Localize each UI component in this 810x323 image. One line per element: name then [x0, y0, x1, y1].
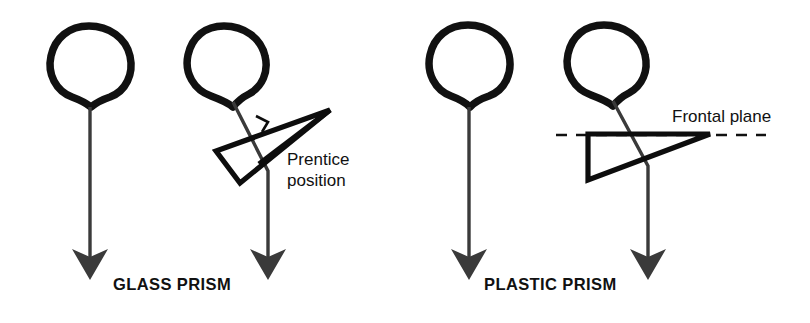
- frontal-plane-label: Frontal plane: [672, 106, 771, 127]
- plastic-prism-head-figure: [556, 25, 766, 258]
- prism-comparison-figure: GLASS PRISM PLASTIC PRISM Prentice posit…: [0, 0, 810, 323]
- glass-prism-head-figure: [187, 26, 330, 258]
- right-angle-marker-icon: [256, 116, 268, 132]
- head-outline-icon: [187, 26, 266, 107]
- prentice-position-label: Prentice position: [287, 149, 349, 191]
- gaze-line: [613, 101, 648, 258]
- plastic-prism-caption: PLASTIC PRISM: [484, 275, 617, 294]
- head-outline-icon: [50, 26, 131, 107]
- head-outline-icon: [429, 25, 510, 107]
- plastic-plain-head-figure: [429, 25, 510, 280]
- head-outline-icon: [567, 25, 646, 106]
- glass-prism-caption: GLASS PRISM: [113, 275, 231, 294]
- glass-plain-head-figure: [50, 26, 131, 280]
